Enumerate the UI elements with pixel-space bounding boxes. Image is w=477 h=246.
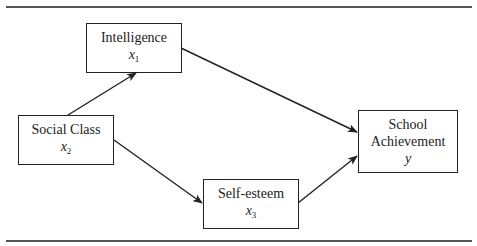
edge-self-esteem-to-school-achievement [298,156,357,203]
node-intelligence: Intelligence x1 [86,23,182,73]
edge-social-class-to-self-esteem [114,140,202,203]
edge-intelligence-to-school-achievement [181,48,357,132]
node-label-line2: Achievement [371,133,446,150]
node-school-achievement: School Achievement y [358,110,458,173]
node-variable: x3 [246,202,257,224]
node-self-esteem: Self-esteem x3 [203,179,299,229]
edge-social-class-to-intelligence [68,73,136,115]
node-social-class: Social Class x2 [18,115,114,165]
node-variable: x1 [129,46,140,68]
node-variable: y [405,150,411,167]
node-label: Intelligence [101,29,167,46]
node-label: Self-esteem [218,185,284,202]
node-label: Social Class [32,121,101,138]
node-variable: x2 [61,138,72,160]
node-label-line1: School [389,116,428,133]
